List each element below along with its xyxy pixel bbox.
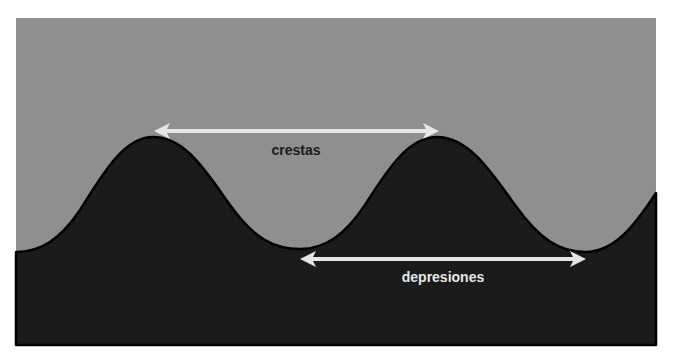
wave-diagram: crestas depresiones <box>0 0 673 362</box>
crests-label: crestas <box>271 142 320 158</box>
troughs-label: depresiones <box>402 269 485 285</box>
